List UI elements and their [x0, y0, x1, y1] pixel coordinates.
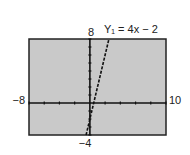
equation-label: Y₁ = 4x − 2 — [104, 23, 158, 35]
x-max-label: 10 — [169, 94, 181, 106]
graph-screen — [29, 39, 166, 135]
x-min-label: −8 — [12, 94, 25, 106]
calculator-graph: 8 −4 −8 10 Y₁ = 4x − 2 — [0, 0, 190, 155]
y-min-label: −4 — [79, 137, 92, 149]
y-max-label: 8 — [88, 26, 94, 38]
